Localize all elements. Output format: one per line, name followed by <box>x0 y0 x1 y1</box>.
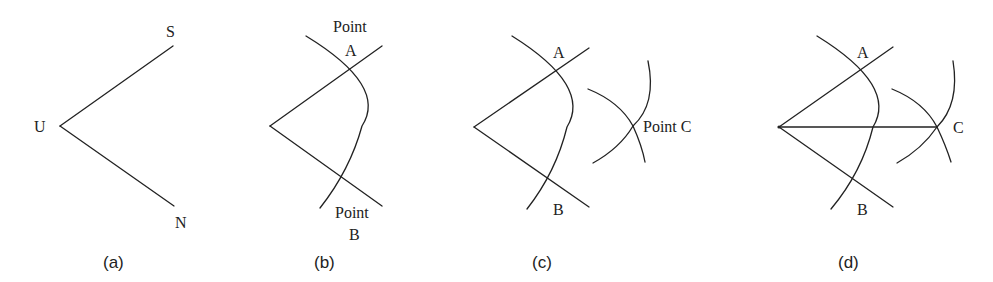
label-c: C <box>953 119 964 136</box>
ray-upper <box>779 47 893 127</box>
arc-ab <box>512 36 573 209</box>
panel-c: A B Point C (c) <box>474 36 691 272</box>
angle-bisection-figure: U S N (a) Point A Point B (b) A B Point … <box>0 0 993 282</box>
panel-a: U S N (a) <box>34 23 187 272</box>
ray-lower <box>270 126 382 206</box>
label-point-b-word: Point <box>335 204 369 221</box>
caption-b: (b) <box>314 253 335 272</box>
ray-lower <box>779 127 893 207</box>
ray-un <box>60 126 174 206</box>
label-point-b: B <box>349 226 360 243</box>
label-b: B <box>857 201 868 218</box>
label-a: A <box>857 44 869 61</box>
label-point-c: Point C <box>643 118 691 135</box>
label-b: B <box>553 201 564 218</box>
arc-ab <box>817 36 879 209</box>
label-u: U <box>34 118 46 135</box>
label-point-a-word: Point <box>333 18 367 35</box>
vertex-dot <box>777 125 780 128</box>
caption-a: (a) <box>103 253 124 272</box>
label-point-a: A <box>345 42 357 59</box>
panel-b: Point A Point B (b) <box>270 18 382 272</box>
ray-upper <box>270 46 382 126</box>
panel-d: A B C (d) <box>777 36 963 272</box>
caption-c: (c) <box>532 253 552 272</box>
ray-lower <box>474 127 589 207</box>
ray-us <box>60 46 173 126</box>
label-s: S <box>166 23 175 40</box>
caption-d: (d) <box>838 253 859 272</box>
arc-from-b <box>588 89 645 162</box>
label-n: N <box>175 214 187 231</box>
label-a: A <box>553 44 565 61</box>
arc-from-b <box>892 89 951 162</box>
